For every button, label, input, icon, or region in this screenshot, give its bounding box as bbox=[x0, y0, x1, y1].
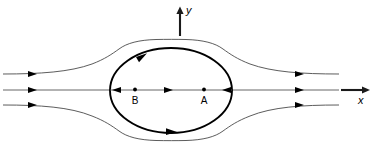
y-axis-arrowhead-icon bbox=[176, 7, 183, 15]
left-inlet-arrowheads bbox=[28, 71, 37, 108]
arrow-front-stagnation-icon bbox=[112, 87, 121, 93]
figure-root: B A y x bbox=[0, 0, 375, 148]
arrow-inlet-lower-icon bbox=[28, 102, 37, 108]
x-axis-arrow bbox=[341, 86, 370, 93]
point-b-label: B bbox=[132, 95, 139, 106]
arrow-outlet-upper-icon bbox=[295, 71, 304, 77]
x-axis-label: x bbox=[357, 94, 364, 106]
body-circulation-arrowheads bbox=[136, 53, 177, 135]
flow-field-diagram: B A y x bbox=[0, 0, 375, 148]
x-axis-arrowhead-icon bbox=[362, 86, 370, 93]
arrow-inlet-upper-icon bbox=[28, 71, 37, 77]
point-a-label: A bbox=[201, 95, 208, 106]
arrow-rear-stagnation-icon bbox=[222, 87, 231, 93]
arrow-outlet-center-icon bbox=[295, 87, 304, 93]
y-axis-label: y bbox=[185, 4, 193, 16]
right-outlet-arrowheads bbox=[295, 71, 304, 108]
arrow-outlet-lower-icon bbox=[295, 102, 304, 108]
point-a-dot bbox=[202, 88, 206, 92]
y-axis-arrow bbox=[176, 7, 183, 37]
point-b-dot bbox=[133, 88, 137, 92]
arrow-inlet-center-icon bbox=[28, 87, 37, 93]
arrow-interior-axis-icon bbox=[164, 87, 173, 93]
